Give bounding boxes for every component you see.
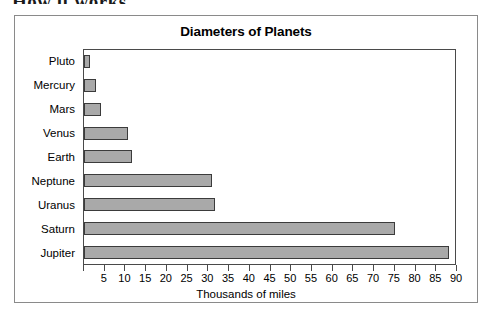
x-axis-tick xyxy=(332,265,333,271)
x-axis-tick-label: 60 xyxy=(326,272,338,284)
x-axis-tick-label: 25 xyxy=(180,272,192,284)
y-axis-category-labels: PlutoMercuryMarsVenusEarthNeptuneUranusS… xyxy=(15,49,79,265)
bar xyxy=(84,103,101,116)
x-axis-title: Thousands of miles xyxy=(15,288,477,300)
y-axis-label: Mercury xyxy=(15,79,79,91)
x-axis-tick-label: 80 xyxy=(408,272,420,284)
cut-off-page-heading: How it works xyxy=(12,0,127,4)
plot-area xyxy=(83,49,456,265)
bar-row xyxy=(84,221,455,235)
x-axis-tick-label: 30 xyxy=(201,272,213,284)
x-axis-tick xyxy=(207,265,208,271)
x-axis-tick xyxy=(435,265,436,271)
bar xyxy=(84,246,449,259)
x-axis-tick xyxy=(373,265,374,271)
x-axis-tick-label: 40 xyxy=(243,272,255,284)
bar-row xyxy=(84,126,455,140)
y-axis-label: Venus xyxy=(15,127,79,139)
bar xyxy=(84,150,132,163)
bar-row xyxy=(84,245,455,259)
x-axis-tick xyxy=(124,265,125,271)
x-axis-tick xyxy=(352,265,353,271)
x-axis-tick-label: 65 xyxy=(346,272,358,284)
x-axis-tick xyxy=(270,265,271,271)
x-axis-tick xyxy=(166,265,167,271)
bar-row xyxy=(84,197,455,211)
x-axis-tick xyxy=(311,265,312,271)
x-axis-tick-label: 45 xyxy=(263,272,275,284)
y-axis-label: Saturn xyxy=(15,223,79,235)
bar-row xyxy=(84,174,455,188)
bar-row xyxy=(84,55,455,69)
bar xyxy=(84,55,90,68)
x-axis-tick xyxy=(228,265,229,271)
x-axis-tick-labels: 51015202530354045505560657075808590 xyxy=(83,272,456,286)
x-axis-tick-label: 15 xyxy=(139,272,151,284)
y-axis-label: Uranus xyxy=(15,199,79,211)
x-axis-tick xyxy=(394,265,395,271)
x-axis-tick-label: 55 xyxy=(305,272,317,284)
x-axis-tick-label: 90 xyxy=(450,272,462,284)
x-axis-tick xyxy=(187,265,188,271)
x-axis-tick xyxy=(83,265,84,271)
x-axis-tick xyxy=(249,265,250,271)
chart-title: Diameters of Planets xyxy=(15,24,477,39)
y-axis-label: Mars xyxy=(15,103,79,115)
bar xyxy=(84,127,128,140)
x-axis-tick-label: 10 xyxy=(118,272,130,284)
bar xyxy=(84,222,395,235)
x-axis-tick xyxy=(415,265,416,271)
bar-row xyxy=(84,102,455,116)
x-axis-tick xyxy=(290,265,291,271)
bar xyxy=(84,174,212,187)
y-axis-label: Neptune xyxy=(15,175,79,187)
x-axis-tick-label: 5 xyxy=(101,272,107,284)
x-axis-tick xyxy=(145,265,146,271)
x-axis-tick-label: 70 xyxy=(367,272,379,284)
x-axis-tick-label: 85 xyxy=(429,272,441,284)
x-axis-tick xyxy=(104,265,105,271)
x-axis-tick xyxy=(456,265,457,271)
bar-row xyxy=(84,79,455,93)
y-axis-label: Pluto xyxy=(15,55,79,67)
x-axis-ticks xyxy=(83,265,456,272)
x-axis-tick-label: 35 xyxy=(222,272,234,284)
chart-frame: Diameters of Planets PlutoMercuryMarsVen… xyxy=(14,15,478,303)
y-axis-label: Jupiter xyxy=(15,247,79,259)
x-axis-tick-label: 50 xyxy=(284,272,296,284)
x-axis-tick-label: 20 xyxy=(160,272,172,284)
x-axis-tick-label: 75 xyxy=(388,272,400,284)
bar-row xyxy=(84,150,455,164)
bar xyxy=(84,198,215,211)
y-axis-label: Earth xyxy=(15,151,79,163)
bar xyxy=(84,79,96,92)
bar-series xyxy=(84,50,455,264)
